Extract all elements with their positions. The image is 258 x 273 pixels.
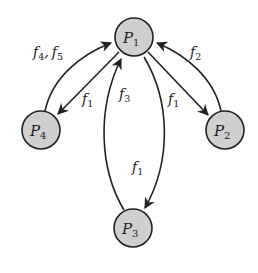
edge-label-f2: f2 xyxy=(189,44,201,62)
node-p1: P1 xyxy=(115,18,153,56)
node-p2: P2 xyxy=(206,111,244,149)
edge-label-f1-left: f1 xyxy=(81,91,93,109)
edge-label-f1-bottom: f1 xyxy=(131,159,143,177)
edge-p2-to-p1 xyxy=(157,43,221,111)
graph-diagram: P1 P2 P3 P4 f4,f5 f1 f2 f1 f3 f1 xyxy=(0,0,258,273)
edge-p1-to-p3 xyxy=(144,57,164,208)
edge-p3-to-p1 xyxy=(104,59,124,210)
edge-label-f4-f5: f4,f5 xyxy=(32,44,63,62)
node-p3: P3 xyxy=(114,209,152,247)
edge-label-f3: f3 xyxy=(118,86,130,104)
edge-label-f1-right: f1 xyxy=(167,91,179,109)
node-p4: P4 xyxy=(22,111,60,149)
